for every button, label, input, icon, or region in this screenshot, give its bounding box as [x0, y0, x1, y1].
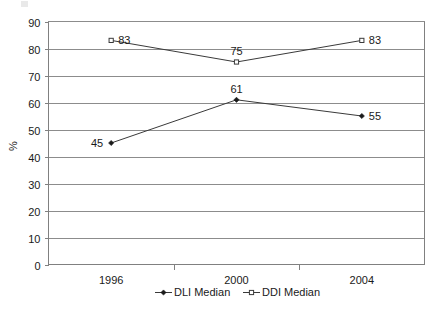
x-tick-group: 199620002004 — [99, 265, 374, 286]
y-tick-label: 60 — [28, 98, 40, 110]
y-tick-label: 30 — [28, 179, 40, 191]
chart-legend: DLI MedianDDI Median — [155, 286, 320, 298]
data-point-marker-filled-diamond — [234, 97, 239, 102]
chart-canvas: 0102030405060708090 199620002004 % 45615… — [0, 0, 439, 315]
data-point-marker-open-square — [249, 290, 253, 294]
series-1: 456155 — [91, 83, 381, 149]
y-tick-label: 90 — [28, 17, 40, 29]
data-point-label: 83 — [118, 34, 130, 46]
y-tick-label: 40 — [28, 152, 40, 164]
data-point-marker-filled-diamond — [109, 140, 114, 145]
legend-label: DLI Median — [174, 286, 230, 298]
legend-item-2[interactable]: DDI Median — [243, 286, 320, 298]
y-tick-label: 20 — [28, 206, 40, 218]
x-tick-label-2000: 2000 — [224, 274, 248, 286]
data-point-marker-filled-diamond — [161, 290, 166, 295]
x-tick-label-1996: 1996 — [99, 274, 123, 286]
data-point-label: 75 — [230, 45, 242, 57]
data-point-marker-filled-diamond — [359, 113, 364, 118]
series-line — [111, 100, 362, 143]
y-tick-label: 0 — [34, 260, 40, 272]
data-point-label: 55 — [369, 110, 381, 122]
y-tick-label: 80 — [28, 44, 40, 56]
series-layer: 456155837583 — [91, 34, 381, 149]
data-point-label: 61 — [230, 83, 242, 95]
y-tick-label: 10 — [28, 233, 40, 245]
y-tick-label: 50 — [28, 125, 40, 137]
data-point-label: 45 — [91, 137, 103, 149]
y-axis-title: % — [7, 141, 19, 151]
y-tick-group: 0102030405060708090 — [28, 17, 48, 272]
gridline-group — [49, 50, 425, 239]
data-point-marker-open-square — [109, 38, 113, 42]
line-chart: 0102030405060708090 199620002004 % 45615… — [0, 0, 439, 315]
data-point-marker-open-square — [360, 38, 364, 42]
legend-label: DDI Median — [262, 286, 320, 298]
data-point-label: 83 — [369, 34, 381, 46]
legend-item-1[interactable]: DLI Median — [155, 286, 230, 298]
x-tick-label-2004: 2004 — [350, 274, 374, 286]
data-point-marker-open-square — [234, 60, 238, 64]
y-tick-label: 70 — [28, 71, 40, 83]
